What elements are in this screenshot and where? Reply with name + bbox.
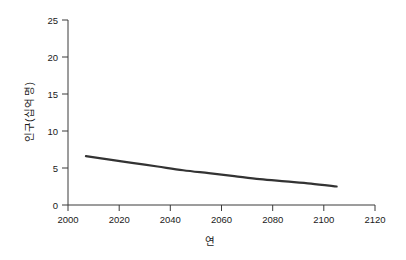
y-tick-label-20: 20 — [47, 52, 58, 63]
y-tick-label-25: 25 — [47, 15, 58, 26]
x-tick-label-2020: 2020 — [109, 214, 130, 225]
y-tick-label-15: 15 — [47, 89, 58, 100]
x-axis-tick-labels: 2000 2020 2040 2060 2080 2100 2120 — [57, 214, 385, 225]
x-axis-title: 연 — [205, 235, 215, 247]
chart-plot-area: 0 5 10 15 20 25 2000 2020 2040 2060 2080… — [0, 0, 406, 260]
x-tick-label-2060: 2060 — [211, 214, 232, 225]
x-tick-label-2100: 2100 — [313, 214, 334, 225]
y-axis-tick-labels: 0 5 10 15 20 25 — [47, 15, 58, 211]
y-axis-ticks — [62, 20, 68, 205]
x-axis-ticks — [68, 205, 375, 211]
population-projection-chart: 0 5 10 15 20 25 2000 2020 2040 2060 2080… — [0, 0, 406, 260]
y-tick-label-5: 5 — [53, 163, 58, 174]
axes-group — [68, 20, 375, 205]
y-axis-title: 인구(십억 명) — [23, 82, 35, 142]
population-line-series — [86, 156, 337, 186]
x-tick-label-2080: 2080 — [262, 214, 283, 225]
y-tick-label-10: 10 — [47, 126, 58, 137]
x-tick-label-2000: 2000 — [57, 214, 78, 225]
y-tick-label-0: 0 — [53, 200, 58, 211]
x-tick-label-2040: 2040 — [160, 214, 181, 225]
x-tick-label-2120: 2120 — [364, 214, 385, 225]
